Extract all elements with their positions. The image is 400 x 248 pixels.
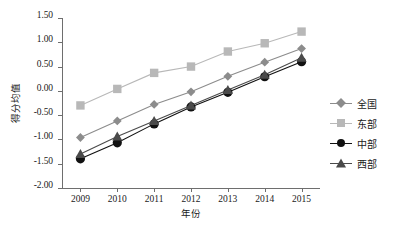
legend-label: 全国 <box>357 96 377 111</box>
x-axis-tick-label: 2010 <box>108 194 127 204</box>
legend-marker <box>330 97 352 109</box>
x-axis-tick-label: 2014 <box>255 194 274 204</box>
series-中部 <box>76 57 306 163</box>
y-axis-label: 得分均值 <box>8 83 22 123</box>
data-point-marker <box>297 53 307 62</box>
data-point-marker <box>260 58 269 67</box>
x-axis-tick-mark <box>265 188 266 192</box>
legend-label: 中部 <box>357 136 377 151</box>
y-axis-tick-label: -0.50 <box>34 107 53 117</box>
data-point-marker <box>149 116 159 125</box>
y-axis-tick-label: 0.00 <box>37 83 53 93</box>
x-axis-label: 年份 <box>62 206 320 220</box>
legend-marker <box>330 117 352 129</box>
data-point-marker <box>297 44 306 53</box>
legend-item-中部[interactable]: 中部 <box>330 137 377 149</box>
x-axis-tick-mark <box>117 188 118 192</box>
legend-marker <box>330 137 352 149</box>
legend-label: 西部 <box>357 156 377 171</box>
data-point-marker <box>261 39 269 47</box>
chart-legend: 全国东部中部西部 <box>330 97 377 169</box>
data-point-marker <box>150 69 158 77</box>
y-axis-tick-label: -1.50 <box>34 156 53 166</box>
x-axis-tick-mark <box>191 188 192 192</box>
legend-item-全国[interactable]: 全国 <box>330 97 377 109</box>
square-icon <box>337 119 345 127</box>
circle-icon <box>337 139 345 147</box>
data-point-marker <box>113 85 121 93</box>
x-axis-tick-mark <box>302 188 303 192</box>
x-axis-tick-label: 2011 <box>145 194 164 204</box>
data-point-marker <box>76 101 84 109</box>
x-axis-tick-label: 2009 <box>71 194 90 204</box>
legend-label: 东部 <box>357 116 377 131</box>
data-point-marker <box>76 133 85 142</box>
data-point-marker <box>224 47 232 55</box>
data-point-marker <box>112 132 122 141</box>
series-全国 <box>76 44 306 142</box>
x-axis-tick-label: 2013 <box>218 194 237 204</box>
data-point-marker <box>187 62 195 70</box>
data-point-marker <box>150 100 159 109</box>
x-axis-tick-label: 2015 <box>292 194 311 204</box>
triangle-icon <box>336 159 346 168</box>
line-chart: 1.501.000.500.00-0.50-1.00-1.50-2.00 200… <box>0 0 400 248</box>
x-axis-tick-mark <box>80 188 81 192</box>
series-东部 <box>76 27 306 109</box>
y-axis-tick-label: -2.00 <box>34 180 53 190</box>
series-plot <box>62 18 320 188</box>
legend-item-东部[interactable]: 东部 <box>330 117 377 129</box>
y-axis-tick-label: 1.50 <box>37 10 53 20</box>
y-axis-tick-label: 0.50 <box>37 59 53 69</box>
legend-item-西部[interactable]: 西部 <box>330 157 377 169</box>
data-point-marker <box>223 72 232 81</box>
data-point-marker <box>113 117 122 126</box>
data-point-marker <box>75 149 85 158</box>
legend-marker <box>330 157 352 169</box>
x-axis-tick-mark <box>228 188 229 192</box>
y-axis-tick-mark <box>58 188 62 189</box>
y-axis-tick-label: -1.00 <box>34 131 53 141</box>
data-point-marker <box>297 27 305 35</box>
diamond-icon <box>336 98 346 108</box>
x-axis-tick-label: 2012 <box>182 194 201 204</box>
y-axis-tick-label: 1.00 <box>37 34 53 44</box>
data-point-marker <box>187 87 196 96</box>
x-axis-tick-mark <box>154 188 155 192</box>
